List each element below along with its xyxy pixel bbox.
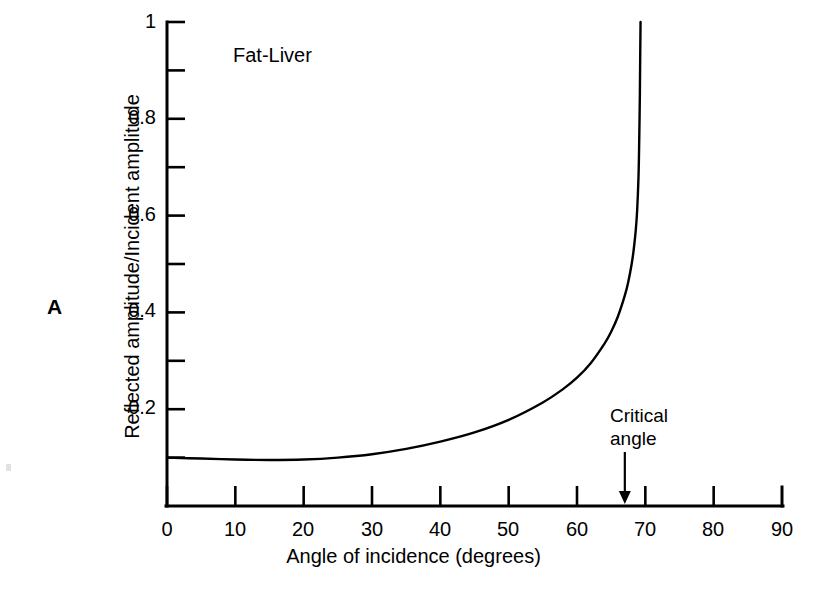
critical-angle-arrow [619,452,631,504]
x-axis-ticks [167,486,714,506]
critical-angle-arrow-head [619,491,631,504]
figure-panel: A Fat-Liver Reflected amplitude/Incident… [0,0,827,599]
series-curve-fat-liver [167,22,641,460]
data-curve-group [167,22,641,460]
y-axis-ticks [167,22,185,458]
plot-area [0,0,827,599]
